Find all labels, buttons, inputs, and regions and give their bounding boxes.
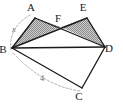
vertex-label-e: E	[80, 1, 87, 13]
vertex-label-a: A	[27, 1, 35, 13]
shaded-triangle-baf	[12, 18, 61, 48]
shaded-triangle-fed	[61, 18, 105, 47]
vertex-label-b: B	[0, 43, 7, 55]
geometry-canvas: x 4 A B C D E F	[0, 0, 123, 106]
vertex-label-c: C	[75, 90, 82, 102]
segment-c-d	[82, 47, 105, 88]
segment-b-d	[12, 47, 105, 48]
vertex-label-d: D	[105, 42, 113, 54]
segment-b-c	[12, 48, 82, 88]
measure-arc-4-bc	[13, 53, 80, 91]
vertex-label-f: F	[55, 12, 61, 24]
measure-label-x: x	[11, 24, 16, 34]
geometry-figure: x 4 A B C D E F	[0, 0, 123, 106]
